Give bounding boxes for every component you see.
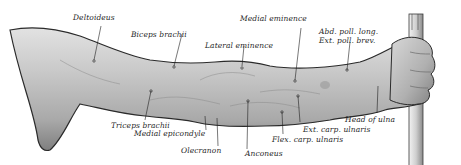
anatomy-figure: Deltoideus Biceps brachii Lateral eminen… (0, 0, 461, 165)
label-anconeus: Anconeus (245, 150, 283, 158)
label-lateral-eminence: Lateral eminence (205, 42, 273, 50)
label-ext-carp-ulnaris: Ext. carp. ulnaris (303, 126, 370, 134)
hand-shape (390, 37, 435, 105)
label-flex-carp-ulnaris: Flex. carp. ulnaris (272, 136, 343, 144)
label-head-of-ulna: Head of ulna (345, 116, 395, 124)
label-olecranon: Olecranon (181, 147, 221, 155)
label-medial-eminence: Medial eminence (240, 15, 307, 23)
label-ext-poll-brev: Ext. poll. brev. (319, 37, 376, 45)
label-deltoideus: Deltoideus (73, 14, 115, 22)
ulna-head-shading (320, 81, 330, 89)
arm-illustration (0, 0, 461, 165)
label-biceps-brachii: Biceps brachii (131, 31, 187, 39)
label-abd-poll-long: Abd. poll. long. (319, 28, 378, 36)
label-medial-epicondyle: Medial epicondyle (134, 130, 205, 138)
